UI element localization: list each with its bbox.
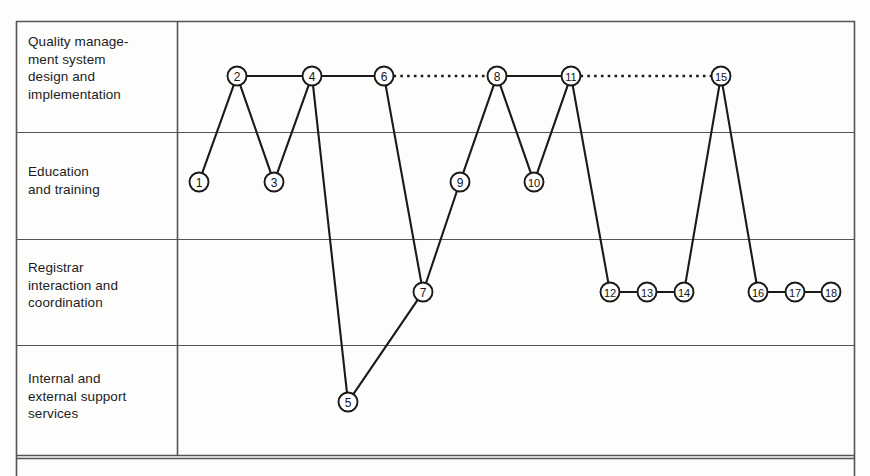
node-2[interactable]: 2 <box>228 67 247 86</box>
node-label-14: 14 <box>678 287 690 299</box>
row-label-education: Education and training <box>28 163 100 198</box>
edge-9-8 <box>463 85 494 173</box>
edge-3-4 <box>277 85 309 173</box>
node-4[interactable]: 4 <box>303 67 322 86</box>
node-15[interactable]: 15 <box>712 67 731 86</box>
node-label-18: 18 <box>825 287 837 299</box>
node-label-10: 10 <box>528 177 540 189</box>
edge-6-7 <box>386 85 422 282</box>
node-label-12: 12 <box>604 287 616 299</box>
row-label-qms: Quality manage- ment system design and i… <box>28 33 129 103</box>
node-label-13: 13 <box>641 287 653 299</box>
node-label-17: 17 <box>789 287 801 299</box>
edge-2-3 <box>240 85 271 173</box>
node-label-2: 2 <box>234 70 241 84</box>
node-label-16: 16 <box>752 287 764 299</box>
node-16[interactable]: 16 <box>749 283 768 302</box>
edge-5-7 <box>353 300 417 394</box>
node-label-6: 6 <box>381 70 388 84</box>
node-8[interactable]: 8 <box>488 67 507 86</box>
node-10[interactable]: 10 <box>525 173 544 192</box>
node-label-3: 3 <box>271 176 278 190</box>
edge-10-11 <box>537 85 568 173</box>
node-label-8: 8 <box>494 70 501 84</box>
node-5[interactable]: 5 <box>339 393 358 412</box>
node-11[interactable]: 11 <box>562 67 581 86</box>
node-label-11: 11 <box>565 71 576 83</box>
edge-14-15 <box>686 85 720 282</box>
edge-11-12 <box>573 85 609 282</box>
edge-7-9 <box>426 191 457 283</box>
activity-chart: 123456789101112131415161718 <box>0 0 870 476</box>
row-label-support: Internal and external support services <box>28 370 126 423</box>
row-label-registrar: Registrar interaction and coordination <box>28 259 118 312</box>
node-label-9: 9 <box>457 176 464 190</box>
node-6[interactable]: 6 <box>375 67 394 86</box>
node-14[interactable]: 14 <box>675 283 694 302</box>
edge-1-2 <box>202 85 234 173</box>
node-label-15: 15 <box>715 71 727 83</box>
node-12[interactable]: 12 <box>601 283 620 302</box>
node-9[interactable]: 9 <box>451 173 470 192</box>
node-3[interactable]: 3 <box>265 173 284 192</box>
edge-layer <box>202 76 821 394</box>
node-18[interactable]: 18 <box>822 283 841 302</box>
node-1[interactable]: 1 <box>190 173 209 192</box>
node-label-7: 7 <box>420 286 427 300</box>
node-13[interactable]: 13 <box>638 283 657 302</box>
node-label-4: 4 <box>309 70 316 84</box>
edge-8-10 <box>500 85 531 173</box>
node-7[interactable]: 7 <box>414 283 433 302</box>
node-17[interactable]: 17 <box>786 283 805 302</box>
grid-layer <box>16 21 855 476</box>
diagram-page: 123456789101112131415161718 Quality mana… <box>0 0 870 476</box>
node-label-1: 1 <box>196 176 203 190</box>
edge-15-16 <box>723 85 757 282</box>
node-label-5: 5 <box>345 396 352 410</box>
